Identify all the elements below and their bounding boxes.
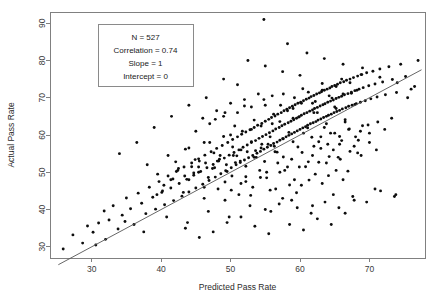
data-point bbox=[169, 178, 172, 181]
data-point bbox=[287, 134, 290, 137]
data-point bbox=[321, 182, 324, 185]
data-point bbox=[378, 76, 381, 79]
data-point bbox=[312, 145, 315, 148]
data-point bbox=[176, 169, 179, 172]
data-point bbox=[180, 195, 183, 198]
data-point bbox=[178, 182, 181, 185]
data-point bbox=[292, 107, 295, 110]
data-point bbox=[390, 117, 393, 120]
data-point bbox=[299, 74, 302, 77]
data-point bbox=[187, 104, 190, 107]
data-point bbox=[282, 156, 285, 159]
data-point bbox=[142, 230, 145, 233]
data-point bbox=[212, 230, 215, 233]
data-point bbox=[174, 160, 177, 163]
data-point bbox=[154, 208, 157, 211]
data-point bbox=[255, 152, 258, 155]
data-point bbox=[353, 145, 356, 148]
data-point bbox=[410, 88, 413, 91]
data-point bbox=[228, 216, 231, 219]
data-point bbox=[250, 128, 253, 131]
data-point bbox=[381, 81, 384, 84]
data-point bbox=[332, 148, 335, 151]
data-point bbox=[311, 154, 314, 157]
data-point bbox=[226, 141, 229, 144]
data-point bbox=[169, 186, 172, 189]
data-point bbox=[393, 195, 396, 198]
data-point bbox=[222, 78, 225, 81]
data-point bbox=[376, 121, 379, 124]
data-point bbox=[223, 157, 226, 160]
data-point bbox=[230, 189, 233, 192]
data-point bbox=[253, 119, 256, 122]
data-point bbox=[218, 158, 221, 161]
data-point bbox=[258, 137, 261, 140]
data-point bbox=[395, 91, 398, 94]
data-point bbox=[368, 141, 371, 144]
data-point bbox=[288, 223, 291, 226]
data-point bbox=[225, 163, 228, 166]
data-point bbox=[243, 159, 246, 162]
data-point bbox=[325, 122, 328, 125]
data-point bbox=[310, 212, 313, 215]
data-point bbox=[260, 143, 263, 146]
data-point bbox=[162, 184, 165, 187]
data-point bbox=[335, 110, 338, 113]
data-point bbox=[165, 216, 168, 219]
data-point bbox=[167, 175, 170, 178]
data-point bbox=[272, 113, 275, 116]
data-point bbox=[222, 135, 225, 138]
data-point bbox=[328, 155, 331, 158]
data-point bbox=[276, 141, 279, 144]
data-point bbox=[187, 178, 190, 181]
data-point bbox=[214, 118, 217, 121]
data-point bbox=[264, 65, 267, 68]
data-point bbox=[224, 199, 227, 202]
data-point bbox=[295, 191, 298, 194]
data-point bbox=[335, 169, 338, 172]
data-point bbox=[314, 173, 317, 176]
data-point bbox=[269, 210, 272, 213]
data-point bbox=[194, 158, 197, 161]
data-point bbox=[357, 139, 360, 142]
data-point bbox=[337, 206, 340, 209]
data-point bbox=[231, 138, 234, 141]
data-point bbox=[306, 126, 309, 129]
data-point bbox=[290, 120, 293, 123]
x-tick-label: 60 bbox=[295, 264, 305, 274]
data-point bbox=[332, 193, 335, 196]
data-point bbox=[281, 197, 284, 200]
data-point bbox=[258, 169, 261, 172]
data-point bbox=[135, 141, 138, 144]
data-point bbox=[317, 119, 320, 122]
data-point bbox=[226, 170, 229, 173]
data-point bbox=[322, 116, 325, 119]
data-point bbox=[307, 160, 310, 163]
data-point bbox=[278, 171, 281, 174]
data-point bbox=[212, 151, 215, 154]
data-point bbox=[271, 122, 274, 125]
data-point bbox=[163, 203, 166, 206]
data-point bbox=[203, 141, 206, 144]
data-point bbox=[309, 122, 312, 125]
data-point bbox=[290, 199, 293, 202]
data-point bbox=[262, 98, 265, 101]
data-point bbox=[316, 106, 319, 109]
data-point bbox=[356, 75, 359, 78]
data-point bbox=[302, 99, 305, 102]
data-point bbox=[219, 172, 222, 175]
data-point bbox=[338, 109, 341, 112]
data-point bbox=[239, 160, 242, 163]
data-point bbox=[262, 148, 265, 151]
data-point bbox=[399, 63, 402, 66]
data-point bbox=[299, 128, 302, 131]
data-point bbox=[246, 59, 249, 62]
data-point bbox=[226, 221, 229, 224]
data-point bbox=[330, 113, 333, 116]
data-point bbox=[383, 128, 386, 131]
data-point bbox=[224, 181, 227, 184]
data-point bbox=[151, 196, 154, 199]
data-point bbox=[269, 189, 272, 192]
data-point bbox=[259, 176, 262, 179]
data-point bbox=[330, 85, 333, 88]
